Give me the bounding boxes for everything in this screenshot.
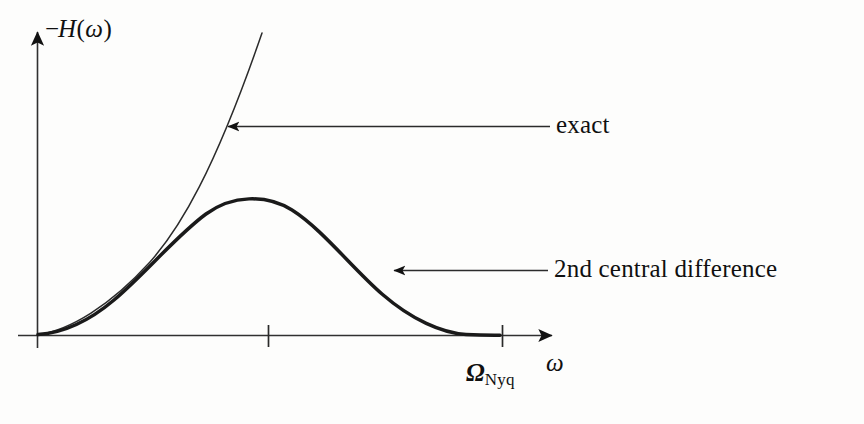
y-axis-label: −H(ω) <box>45 16 112 41</box>
y-axis-label-minus: − <box>45 15 58 42</box>
axis-lines <box>18 32 552 348</box>
x-tick-label-nyquist: ΩNyq <box>466 360 515 388</box>
y-axis-label-symbol: H <box>58 15 76 42</box>
y-axis-label-close-paren: ) <box>103 15 112 42</box>
y-axis-label-open-paren: ( <box>77 15 86 42</box>
x-tick-label-omega: Ω <box>466 359 485 386</box>
figure-canvas: −H(ω) exact 2nd central difference ΩNyq … <box>0 0 864 424</box>
x-tick-label-subscript: Nyq <box>485 370 515 389</box>
y-axis-label-argument: ω <box>85 15 103 42</box>
x-axis-label: ω <box>546 350 564 375</box>
curve-exact <box>38 33 262 335</box>
annotation-label-2nd-central-difference: 2nd central difference <box>554 256 777 281</box>
curve-2nd-central-difference <box>38 199 500 336</box>
plot-svg <box>0 0 864 424</box>
annotation-label-exact: exact <box>556 112 610 137</box>
